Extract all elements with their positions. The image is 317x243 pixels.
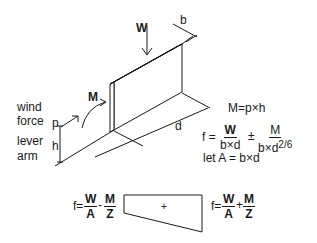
b-label: b <box>180 14 187 27</box>
let-a-equation: let A = b×d <box>203 152 260 165</box>
right-term2-num: M <box>243 193 255 207</box>
left-term2-num: M <box>104 193 116 207</box>
panel-front-face <box>114 44 182 130</box>
lever-label: lever <box>17 135 43 148</box>
m-label: M <box>88 91 98 104</box>
center-sign: + <box>161 200 167 213</box>
left-term1-num: W <box>84 193 97 207</box>
right-f-prefix: f= <box>211 200 221 213</box>
force-label: force <box>17 115 44 128</box>
right-term1-den: A <box>224 207 233 220</box>
f-term1-fraction: W b×d <box>220 124 240 151</box>
f-term2-den: b×d2/6 <box>258 138 292 154</box>
left-term1-den: A <box>86 207 95 220</box>
left-term1: W A <box>84 193 97 220</box>
arm-label: arm <box>17 150 38 163</box>
left-op: - <box>98 199 102 212</box>
right-term2: M Z <box>243 193 255 220</box>
right-term1: W A <box>222 193 235 220</box>
w-label: W <box>136 22 147 35</box>
left-f-prefix: f= <box>73 200 83 213</box>
d-label: d <box>175 120 182 133</box>
left-term2: M Z <box>104 193 116 220</box>
f-term1-num: W <box>224 124 237 138</box>
f-prefix: f = <box>202 131 216 144</box>
panel-drawing <box>0 0 317 243</box>
h-label: h <box>52 140 59 153</box>
p-label: p <box>52 117 59 130</box>
f-term2-den-exp: 2/6 <box>278 139 292 150</box>
right-term2-den: Z <box>245 207 252 220</box>
panel-edge <box>110 82 114 132</box>
right-op: + <box>236 199 243 212</box>
f-term2-fraction: M b×d2/6 <box>258 124 292 154</box>
right-term1-num: W <box>222 193 235 207</box>
f-term2-num: M <box>269 124 281 138</box>
left-term2-den: Z <box>106 207 113 220</box>
m-moment-arrow <box>82 102 105 128</box>
f-term1-den: b×d <box>220 138 240 151</box>
wind-label: wind <box>17 101 42 114</box>
plus-minus: ± <box>248 130 255 143</box>
f-term2-den-base: b×d <box>258 141 278 155</box>
ground-line <box>55 130 114 166</box>
moment-equation: M=p×h <box>228 102 265 115</box>
p-arrow <box>61 116 78 127</box>
